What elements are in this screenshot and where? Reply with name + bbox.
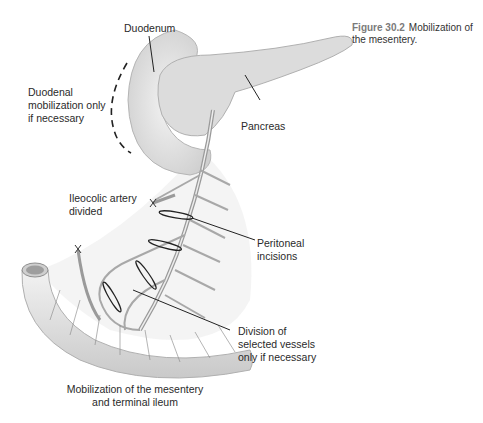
label-division-vessels: Division of selected vessels only if nec… [238, 325, 316, 364]
label-peritoneal-incisions: Peritoneal incisions [257, 237, 304, 263]
figure-number: Figure 30.2 [352, 22, 405, 33]
label-pancreas: Pancreas [241, 120, 285, 133]
label-bottom-title: Mobilization of the mesentery and termin… [60, 383, 210, 409]
label-duodenal-mobilization: Duodenal mobilization only if necessary [28, 86, 106, 125]
figure-caption: Figure 30.2Mobilization of the mesentery… [352, 22, 482, 46]
mesentery [40, 150, 251, 340]
label-ileocolic: Ileocolic artery divided [69, 192, 137, 218]
label-duodenum: Duodenum [124, 22, 175, 35]
